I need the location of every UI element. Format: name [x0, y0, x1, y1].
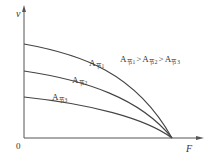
relation-expression: A节1>A节2>A节3	[120, 54, 180, 66]
y-axis-arrow-icon	[22, 5, 26, 12]
curve-a2	[24, 71, 172, 138]
curve-label-a1: A节1	[89, 58, 105, 70]
x-axis-label: F	[185, 143, 193, 154]
curve-a3	[24, 97, 172, 138]
velocity-load-diagram: v F 0 A节1 A节2 A节3 A节1>A节2>A节3	[0, 0, 210, 157]
x-axis-arrow-icon	[196, 136, 204, 140]
origin-label: 0	[16, 141, 21, 151]
y-axis-label: v	[16, 8, 21, 19]
curve-label-a2: A节2	[72, 75, 88, 87]
curve-label-a3: A节3	[52, 92, 68, 104]
